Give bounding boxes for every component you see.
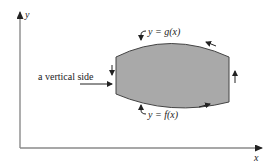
y-axis-label: y (24, 9, 30, 20)
upper-curve-leader-icon (141, 31, 146, 40)
lower-curve-label: y = f(x) (147, 109, 179, 121)
arrow-top-icon (206, 42, 216, 46)
lower-curve-leader-icon (141, 105, 146, 114)
x-axis-label: x (253, 152, 259, 163)
upper-curve-label: y = g(x) (147, 26, 181, 38)
diagram-canvas: y x y = g(x) y = f(x) a vertical side (0, 0, 270, 164)
vertical-side-label: a vertical side (38, 71, 94, 82)
shaded-region (116, 44, 229, 108)
